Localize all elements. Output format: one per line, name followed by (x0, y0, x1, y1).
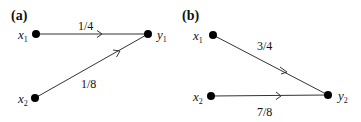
node-label-y1: y1 (155, 27, 167, 44)
edge-label-x1-y2: 3/4 (257, 39, 272, 53)
node-y2 (324, 91, 332, 99)
panel-b-label: (b) (182, 8, 199, 24)
node-label-y2: y2 (336, 88, 348, 105)
node-label-x2: x2 (192, 89, 203, 106)
node-label-x1: x1 (192, 28, 203, 45)
edge-label-x2-y2: 7/8 (257, 105, 272, 119)
node-label-x2: x2 (17, 91, 28, 108)
node-x1 (32, 30, 40, 38)
edge-x2-y2 (211, 95, 328, 96)
edge-label-x1-y1: 1/4 (78, 19, 93, 33)
bipartite-diagram: (a) 1/4 1/8 x1 x2 y1 (b) 3/4 7/8 x1 x2 y… (0, 0, 361, 122)
panel-b: (b) 3/4 7/8 x1 x2 y2 (182, 8, 348, 119)
node-x2 (207, 92, 215, 100)
panel-a-label: (a) (11, 8, 28, 24)
panel-a: (a) 1/4 1/8 x1 x2 y1 (11, 8, 167, 108)
node-y1 (144, 30, 152, 38)
node-x1 (209, 31, 217, 39)
node-x2 (31, 94, 39, 102)
node-label-x1: x1 (17, 27, 28, 44)
edge-label-x2-y1: 1/8 (81, 77, 96, 91)
